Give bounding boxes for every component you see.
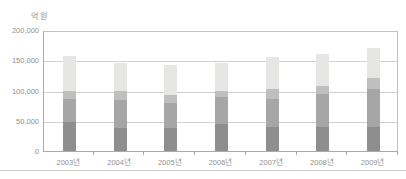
y-tick-label-150,000: 150,000	[1, 56, 39, 65]
bar-2008년-segment-3-light-gray	[316, 86, 329, 94]
bar-2003년	[63, 56, 76, 151]
bar-2008년-segment-4-lightest-gray	[316, 54, 329, 86]
x-tick-label-2008년: 2008년	[297, 156, 347, 167]
x-tick-label-2009년: 2009년	[348, 156, 398, 167]
x-tick-label-2007년: 2007년	[246, 156, 296, 167]
bottom-divider-line	[0, 170, 406, 171]
bar-2003년-segment-3-light-gray	[63, 91, 76, 99]
bar-2004년-segment-3-light-gray	[114, 91, 127, 101]
x-axis-tick	[93, 152, 94, 155]
plot-area	[43, 31, 398, 152]
bar-2007년-segment-2-medium-gray	[266, 99, 279, 127]
bar-2004년	[114, 63, 127, 151]
bar-2007년	[266, 57, 279, 151]
bar-2003년-segment-2-medium-gray	[63, 99, 76, 122]
bar-2005년-segment-4-lightest-gray	[164, 65, 177, 95]
bar-2003년-segment-1-dark-gray	[63, 122, 76, 151]
bar-2006년	[215, 63, 228, 151]
bar-2007년-segment-1-dark-gray	[266, 127, 279, 151]
y-tick-label-50,000: 50,000	[1, 117, 39, 126]
x-axis-tick	[245, 152, 246, 155]
bar-2009년	[367, 48, 380, 151]
bar-2005년	[164, 65, 177, 151]
bar-2004년-segment-2-medium-gray	[114, 100, 127, 128]
bar-2006년-segment-2-medium-gray	[215, 97, 228, 124]
bar-2004년-segment-1-dark-gray	[114, 128, 127, 151]
x-tick-label-2004년: 2004년	[94, 156, 144, 167]
bar-2008년-segment-2-medium-gray	[316, 94, 329, 127]
x-axis-tick	[397, 152, 398, 155]
x-axis-tick	[143, 152, 144, 155]
bar-2004년-segment-4-lightest-gray	[114, 63, 127, 90]
x-axis-tick	[194, 152, 195, 155]
x-tick-label-2003년: 2003년	[43, 156, 93, 167]
y-tick-label-200,000: 200,000	[1, 26, 39, 35]
bar-2009년-segment-4-lightest-gray	[367, 48, 380, 78]
bar-2008년-segment-1-dark-gray	[316, 127, 329, 151]
x-axis-tick	[346, 152, 347, 155]
y-tick-label-100,000: 100,000	[1, 87, 39, 96]
bar-2005년-segment-1-dark-gray	[164, 128, 177, 151]
bar-2006년-segment-1-dark-gray	[215, 124, 228, 151]
bar-2007년-segment-4-lightest-gray	[266, 57, 279, 89]
bar-2006년-segment-4-lightest-gray	[215, 63, 228, 91]
bar-2009년-segment-2-medium-gray	[367, 89, 380, 127]
y-tick-label-0: 0	[1, 147, 39, 156]
bar-2009년-segment-1-dark-gray	[367, 127, 380, 151]
stacked-bar-chart-figure: 억 원 050,000100,000150,000200,000 2003년20…	[0, 0, 406, 179]
bar-2005년-segment-2-medium-gray	[164, 103, 177, 128]
x-tick-label-2005년: 2005년	[145, 156, 195, 167]
bar-2009년-segment-3-light-gray	[367, 78, 380, 89]
x-tick-label-2006년: 2006년	[196, 156, 246, 167]
bar-2003년-segment-4-lightest-gray	[63, 56, 76, 90]
x-axis-tick	[296, 152, 297, 155]
bar-2007년-segment-3-light-gray	[266, 89, 279, 99]
bar-2008년	[316, 54, 329, 151]
bar-2005년-segment-3-light-gray	[164, 95, 177, 102]
y-axis-unit-label: 억 원	[31, 10, 47, 21]
